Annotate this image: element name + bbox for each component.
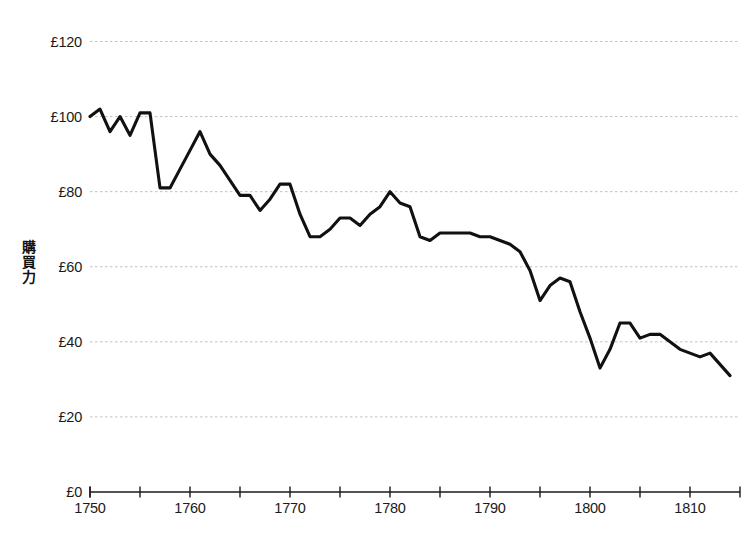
purchasing-power-line-chart: 購買力 £120£100£80£60£40£20£0 1750176017701… bbox=[0, 0, 755, 554]
data-series-line bbox=[90, 109, 730, 376]
gridlines-group bbox=[90, 42, 740, 417]
x-axis-group bbox=[90, 487, 740, 498]
chart-plot-area bbox=[0, 0, 755, 554]
